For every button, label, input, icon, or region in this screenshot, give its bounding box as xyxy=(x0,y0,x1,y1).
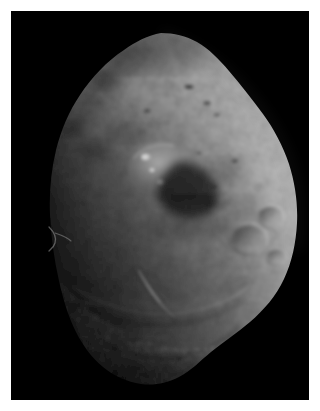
image-plate xyxy=(11,11,309,400)
comet-nucleus-photograph xyxy=(11,11,309,400)
image-frame: Grayscale spacecraft photograph of an ir… xyxy=(0,0,320,411)
plate-vignette xyxy=(11,11,309,400)
